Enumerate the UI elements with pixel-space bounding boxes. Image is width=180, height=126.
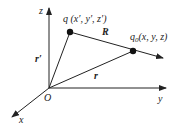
R-vector-label: R	[101, 26, 109, 37]
coordinate-vector-diagram: z y x O q (x′, y′, z′) q0(x, y, z) R r′ …	[0, 0, 180, 126]
field-point-coords: (x, y, z)	[139, 31, 169, 43]
y-axis-label: y	[157, 93, 163, 104]
source-point-label: q (x′, y′, z′)	[63, 13, 107, 25]
field-point-q0	[130, 48, 136, 54]
source-point-q	[67, 29, 73, 35]
r-prime-vector-label: r′	[35, 53, 42, 64]
origin-label: O	[44, 92, 51, 103]
field-point-label: q0(x, y, z)	[130, 31, 168, 44]
r-vector-label: r	[94, 70, 98, 81]
x-axis-label: x	[18, 114, 24, 125]
z-axis-label: z	[38, 5, 43, 16]
r-vector	[49, 51, 133, 88]
diagram-svg: z y x O q (x′, y′, z′) q0(x, y, z) R r′ …	[0, 0, 180, 126]
